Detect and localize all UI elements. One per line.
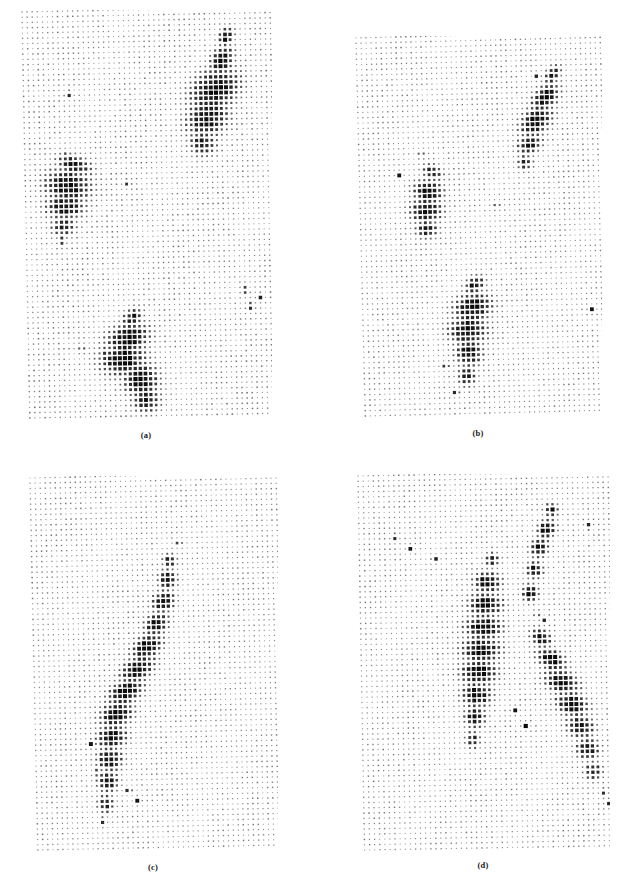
panel-a-label: (a) bbox=[20, 430, 272, 440]
panel-c-label: (c) bbox=[28, 862, 278, 872]
panel-c bbox=[28, 476, 278, 852]
panel-a bbox=[20, 10, 272, 420]
panel-d-label: (d) bbox=[356, 860, 610, 870]
panel-d bbox=[356, 474, 610, 852]
panel-b-label: (b) bbox=[354, 428, 602, 438]
panel-b bbox=[354, 36, 602, 418]
panel-a-plot bbox=[20, 10, 272, 420]
panel-b-plot bbox=[354, 36, 602, 418]
figure-container: (a) (b) (c) (d) bbox=[0, 0, 628, 893]
panel-c-plot bbox=[28, 476, 278, 852]
panel-d-plot bbox=[356, 474, 610, 852]
